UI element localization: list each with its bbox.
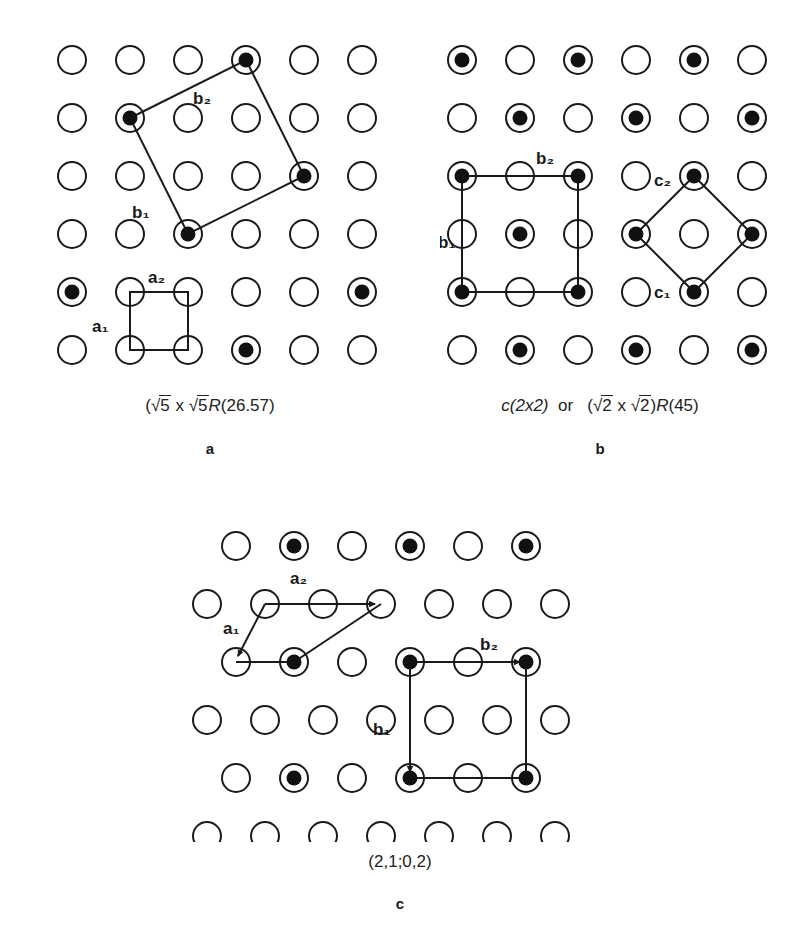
panel-c-label-b2: b₂ [480,635,498,654]
adsorbate-dot [629,111,644,126]
panel-b-label-b2: b₂ [536,149,554,168]
caption-b-num2: 2 [639,395,650,415]
panel-c-letter: c [200,895,600,912]
caption-a-angle: (26.57) [221,396,275,415]
panel-b-adsorbate-dots [455,53,760,358]
adsorbate-dot [239,53,254,68]
adsorbate-dot [287,655,302,670]
adsorbate-dot [287,771,302,786]
panel-a-svg: b₂ b₁ a₂ a₁ [50,36,390,386]
adsorbate-dot [65,285,80,300]
adsorbate-dot [687,285,702,300]
panel-b-label-c2: c₂ [654,171,671,190]
panel-b-letter: b [410,440,790,457]
adsorbate-dot [629,227,644,242]
adsorbate-dot [403,539,418,554]
adsorbate-dot [571,169,586,184]
panel-c-label-a2: a₂ [290,569,307,588]
adsorbate-dot [513,343,528,358]
adsorbate-dot [571,285,586,300]
caption-c-notation: (2,1;0,2) [368,852,431,871]
caption-a-R: R [209,396,221,415]
panel-b-label-b1: b₁ [440,233,455,252]
panel-a-caption: (√5 x √5R(26.57) [30,396,390,416]
panel-c-label-a1: a₁ [223,619,240,638]
adsorbate-dot [297,169,312,184]
panel-a-letter: a [30,440,390,457]
adsorbate-dot [745,227,760,242]
adsorbate-dot [403,655,418,670]
panel-b-label-c1: c₁ [654,283,671,302]
adsorbate-dot [687,53,702,68]
caption-b-num1: 2 [601,395,612,415]
panel-a-label-a1: a₁ [92,317,109,336]
caption-b-R: R [656,396,668,415]
adsorbate-dot [287,539,302,554]
panel-a-label-b1: b₁ [132,203,149,222]
adsorbate-dot [181,227,196,242]
adsorbate-dot [239,343,254,358]
panel-b-c2x2-lattice: b₂ b₁ c₂ c₁ [440,36,780,386]
caption-b-or: or [558,396,573,415]
figure-root: b₂ b₁ a₂ a₁ (√5 x √5R(26.57) a [0,0,798,935]
panel-c-svg: a₂ a₁ b₂ b₁ [190,522,620,842]
vector-a1-arrow [238,604,265,656]
adsorbate-dot [687,169,702,184]
adsorbate-dot [513,227,528,242]
adsorbate-dot [571,53,586,68]
adsorbate-dot [745,343,760,358]
panel-b-substrate-circles [448,46,766,364]
panel-c-label-b1: b₁ [373,720,390,739]
caption-b-angle: (45) [668,396,698,415]
adsorbate-dot [629,343,644,358]
adsorbate-dot [355,285,370,300]
panel-a-label-b2: b₂ [193,89,211,108]
panel-a-label-a2: a₂ [148,268,165,287]
caption-a-num1: 5 [159,395,170,415]
panel-c-hexagonal-lattice: a₂ a₁ b₂ b₁ [190,522,620,842]
caption-a-times: x [171,396,189,415]
caption-a-num2: 5 [197,395,208,415]
panel-c-caption: (2,1;0,2) [200,852,600,872]
adsorbate-dot [455,169,470,184]
caption-b-times: x [613,396,631,415]
panel-c-substrate-circles [193,532,569,842]
adsorbate-dot [745,111,760,126]
panel-b-svg: b₂ b₁ c₂ c₁ [440,36,780,386]
panel-b-caption: c(2x2) or (√2 x √2)R(45) [410,396,790,416]
adsorbate-dot [455,53,470,68]
adsorbate-dot [403,771,418,786]
panel-a-adsorbate-dots [65,53,370,358]
adsorbate-dot [455,285,470,300]
panel-a-superlattice-cell [130,60,304,234]
adsorbate-dot [513,111,528,126]
adsorbate-dot [123,111,138,126]
adsorbate-dot [519,771,534,786]
caption-b-c-notation: c(2x2) [501,396,548,415]
adsorbate-dot [519,539,534,554]
adsorbate-dot [519,655,534,670]
panel-a-sqrt5-lattice: b₂ b₁ a₂ a₁ [50,36,390,386]
